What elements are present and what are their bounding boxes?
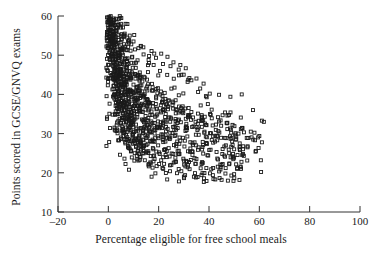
data-point [216, 116, 219, 119]
data-point [178, 136, 181, 139]
data-point [252, 109, 255, 112]
data-point [228, 152, 231, 155]
data-point [147, 64, 150, 67]
data-point [220, 136, 223, 139]
data-point [129, 49, 132, 52]
data-point [154, 56, 157, 59]
data-point [127, 168, 130, 171]
data-point [161, 63, 164, 66]
data-point [226, 122, 229, 125]
x-tick-label: 0 [106, 216, 112, 227]
data-point [199, 87, 202, 90]
data-point [259, 159, 262, 162]
y-tick-label: 40 [22, 89, 52, 100]
data-point [257, 147, 260, 150]
data-point [164, 113, 167, 116]
data-point [187, 164, 190, 167]
x-tick-label: 40 [204, 216, 215, 227]
data-point [160, 159, 163, 162]
data-point [253, 131, 256, 134]
data-point [162, 138, 165, 141]
data-point [177, 74, 180, 77]
data-point [196, 148, 199, 151]
data-point [174, 156, 177, 159]
data-point [159, 90, 162, 93]
data-point [176, 140, 179, 143]
data-point [200, 174, 203, 177]
data-point [215, 123, 218, 126]
data-point [132, 105, 135, 108]
data-point [132, 83, 135, 86]
data-point [170, 87, 173, 90]
data-point [150, 175, 153, 178]
data-point [153, 157, 156, 160]
data-point [239, 149, 242, 152]
data-point [106, 84, 109, 87]
data-point [224, 167, 227, 170]
data-point [112, 85, 115, 88]
data-point [150, 110, 153, 113]
data-point [166, 73, 169, 76]
data-point-layer [105, 15, 266, 184]
data-point [164, 116, 167, 119]
data-point [260, 171, 263, 174]
data-point [146, 71, 149, 74]
data-point [191, 150, 194, 153]
data-point [158, 69, 161, 72]
data-point [154, 172, 157, 175]
data-point [199, 167, 202, 170]
data-point [199, 104, 202, 107]
data-point [216, 157, 219, 160]
data-point [179, 63, 182, 66]
data-point [142, 53, 145, 56]
data-point [182, 92, 185, 95]
data-point [238, 142, 241, 145]
data-point [143, 159, 146, 162]
x-tick-label: 60 [254, 216, 265, 227]
data-point [172, 107, 175, 110]
data-point [234, 138, 237, 141]
data-point [200, 125, 203, 128]
data-point [211, 174, 214, 177]
data-point [177, 68, 180, 71]
data-point [124, 121, 127, 124]
data-point [186, 135, 189, 138]
data-point [224, 172, 227, 175]
x-tick-label: 80 [304, 216, 315, 227]
data-point [141, 80, 144, 83]
data-point [221, 114, 224, 117]
data-point [192, 175, 195, 178]
data-point [120, 91, 123, 94]
data-point [131, 66, 134, 69]
data-point [155, 108, 158, 111]
data-point [232, 152, 235, 155]
data-point [159, 93, 162, 96]
data-point [190, 111, 193, 114]
data-point [260, 141, 263, 144]
data-point [177, 94, 180, 97]
data-point [236, 154, 239, 157]
data-point [158, 163, 161, 166]
data-point [166, 178, 169, 181]
scatter-plot-figure: 102030405060 –20020406080100 Points scor… [0, 0, 382, 258]
data-point [184, 67, 187, 70]
data-point [172, 61, 175, 64]
data-point [233, 173, 236, 176]
data-point [183, 145, 186, 148]
data-point [169, 65, 172, 68]
data-point [242, 131, 245, 134]
data-point [130, 156, 133, 159]
data-point [171, 100, 174, 103]
data-point [109, 127, 112, 130]
data-point [105, 95, 108, 98]
data-point [160, 52, 163, 55]
data-point [210, 108, 213, 111]
data-point [206, 103, 209, 106]
data-point [168, 170, 171, 173]
x-axis-title: Percentage eligible for free school meal… [0, 233, 382, 245]
data-point [152, 102, 155, 105]
data-point [216, 165, 219, 168]
data-point [196, 112, 199, 115]
data-point [182, 159, 185, 162]
data-point [141, 90, 144, 93]
